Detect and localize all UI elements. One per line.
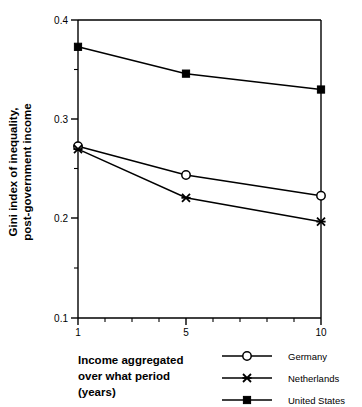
gini-index-line-chart: Gini index of inequality, post-governmen…: [0, 0, 362, 407]
y-tick-label-3: 0.1: [54, 313, 68, 324]
legend-label: Netherlands: [288, 373, 339, 384]
x-axis-title-line1: Income aggregated: [78, 354, 183, 366]
x-tick-label-0: 1: [75, 327, 81, 338]
x-axis-title-line2: over what period: [78, 370, 170, 382]
legend-marker: [243, 352, 251, 360]
data-point-5: [182, 171, 190, 179]
y-tick-label-0: 0.4: [54, 15, 68, 26]
legend-label: United States: [288, 395, 345, 406]
chart-figure: Gini index of inequality, post-governmen…: [0, 0, 362, 407]
y-axis-title-line2: post-government income: [21, 103, 33, 240]
legend-label: Germany: [288, 351, 327, 362]
data-point-10: [317, 192, 325, 200]
data-point-1: [74, 43, 81, 50]
data-point-10: [317, 86, 324, 93]
x-tick-label-1: 5: [183, 327, 189, 338]
x-tick-label-2: 10: [315, 327, 327, 338]
y-tick-label-1: 0.3: [54, 114, 68, 125]
chart-background: [0, 0, 362, 407]
data-point-5: [182, 70, 189, 77]
legend-marker: [243, 396, 250, 403]
y-axis-title-line1: Gini index of inequality,: [7, 108, 19, 237]
y-tick-label-2: 0.2: [54, 213, 68, 224]
x-axis-title-line3: (years): [78, 386, 116, 398]
